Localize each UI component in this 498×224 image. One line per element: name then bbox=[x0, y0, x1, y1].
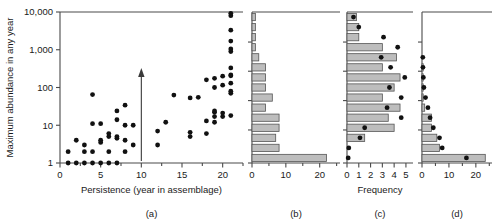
panel-a-data-point-35 bbox=[188, 130, 193, 135]
panel-a-data-point-59 bbox=[228, 47, 233, 52]
panel-b-label: (b) bbox=[290, 208, 302, 219]
panel-a-data-point-7 bbox=[66, 149, 71, 154]
panel-b-bar-9 bbox=[252, 64, 266, 71]
panel-a-data-point-34 bbox=[188, 134, 193, 139]
panel-d-x-tick-label-1: 10 bbox=[444, 169, 455, 180]
panel-d-overlay-point-7 bbox=[421, 85, 426, 90]
panel-a-data-point-5 bbox=[106, 161, 111, 166]
panel-c-x-tick-label-3: 3 bbox=[380, 169, 385, 180]
panel-b-x-tick-label-0: 0 bbox=[249, 169, 254, 180]
panel-a-data-point-60 bbox=[228, 39, 233, 44]
panel-c-overlay-point-8 bbox=[402, 75, 407, 80]
panel-d-bar-2 bbox=[422, 134, 437, 141]
panel-d-overlay-point-9 bbox=[421, 65, 426, 70]
panel-c-overlay-point-5 bbox=[385, 105, 390, 110]
panel-a-x-tick-label-2: 10 bbox=[136, 169, 147, 180]
panel-b-bar-3 bbox=[252, 124, 279, 131]
panel-d-overlay-point-6 bbox=[423, 95, 428, 100]
panel-c-overlay-point-14 bbox=[351, 15, 356, 20]
figure-container: 1101001,00010,000Maximum abundance in an… bbox=[0, 0, 498, 224]
panel-a-data-point-27 bbox=[123, 103, 128, 108]
panel-d-overlay-point-3 bbox=[431, 125, 436, 130]
panel-a-data-point-63 bbox=[228, 11, 233, 16]
panel-a-x-tick-label-1: 5 bbox=[98, 169, 103, 180]
panel-a-data-point-20 bbox=[123, 138, 128, 143]
panel-a-data-point-10 bbox=[106, 149, 111, 154]
panel-b-bar-0 bbox=[252, 154, 326, 161]
panel-a-data-point-8 bbox=[82, 149, 87, 154]
panel-c-overlay-point-4 bbox=[399, 115, 404, 120]
panel-a-data-point-51 bbox=[228, 113, 233, 118]
panel-a-data-point-11 bbox=[123, 149, 128, 154]
panel-c-overlay-point-6 bbox=[399, 95, 404, 100]
panel-a-axis-group: 05101520 bbox=[57, 163, 243, 180]
panel-b-bar-1 bbox=[252, 144, 279, 151]
panel-c-overlay-point-13 bbox=[356, 25, 361, 30]
panel-a-data-point-28 bbox=[115, 108, 120, 113]
panel-c-overlay-point-2 bbox=[358, 135, 363, 140]
panel-d-x-tick-label-2: 20 bbox=[471, 169, 482, 180]
panel-a-data-point-49 bbox=[220, 83, 225, 88]
panel-d-overlay-point-1 bbox=[440, 146, 445, 151]
panel-a-data-point-37 bbox=[196, 95, 201, 100]
y-tick-label-0: 1 bbox=[48, 157, 53, 168]
panel-c-overlay-point-3 bbox=[362, 125, 367, 130]
panel-d-bar-6 bbox=[422, 94, 423, 101]
y-tick-label-2: 100 bbox=[37, 82, 53, 93]
four-panel-figure: 1101001,00010,000Maximum abundance in an… bbox=[0, 0, 498, 224]
panel-a-data-point-24 bbox=[90, 121, 95, 126]
panel-a-data-point-42 bbox=[212, 114, 217, 119]
panel-a-data-point-54 bbox=[228, 81, 233, 86]
panel-d-x-tick-label-0: 0 bbox=[419, 169, 424, 180]
panel-b-bar-4 bbox=[252, 114, 279, 121]
panel-c-bar-12 bbox=[347, 34, 359, 41]
panel-a-data-point-40 bbox=[204, 77, 209, 82]
panel-a-data-point-46 bbox=[212, 76, 217, 81]
panel-b-bar-7 bbox=[252, 84, 266, 91]
panel-c-x-axis-title: Frequency bbox=[358, 184, 403, 195]
panel-a-data-point-19 bbox=[115, 134, 120, 139]
panel-a-data-point-33 bbox=[171, 93, 176, 98]
panel-c-x-tick-label-5: 5 bbox=[403, 169, 408, 180]
panel-c-bar-3 bbox=[347, 124, 394, 131]
panel-c-bar-6 bbox=[347, 94, 382, 101]
panel-a-data-point-0 bbox=[66, 161, 71, 166]
panel-d-label: (d) bbox=[451, 208, 463, 219]
panel-a-plot bbox=[60, 11, 243, 165]
panel-d-overlay-point-5 bbox=[426, 105, 431, 110]
panel-b-bar-10 bbox=[252, 54, 259, 61]
panel-a-data-point-56 bbox=[228, 73, 233, 78]
y-tick-label-3: 1,000 bbox=[29, 44, 53, 55]
panel-a-data-point-45 bbox=[212, 85, 217, 90]
panel-a-data-point-44 bbox=[212, 108, 217, 113]
panel-a-data-point-9 bbox=[90, 149, 95, 154]
panel-a-data-point-25 bbox=[98, 121, 103, 126]
panel-b-x-tick-label-2: 20 bbox=[314, 169, 325, 180]
panel-b-bar-5 bbox=[252, 104, 266, 111]
panel-b-bar-11 bbox=[252, 44, 255, 51]
panel-b-plot bbox=[252, 12, 340, 162]
panel-a-data-point-36 bbox=[188, 96, 193, 101]
panel-c-plot bbox=[346, 12, 413, 160]
panel-a-data-point-3 bbox=[90, 161, 95, 166]
panel-a-data-point-2 bbox=[82, 161, 87, 166]
panel-d-bar-5 bbox=[422, 104, 425, 111]
panel-a-data-point-4 bbox=[98, 161, 103, 166]
panel-d-bar-3 bbox=[422, 124, 431, 131]
panel-a-data-point-1 bbox=[74, 161, 79, 166]
panel-a-data-point-22 bbox=[131, 143, 136, 148]
panel-a-data-point-26 bbox=[115, 117, 120, 122]
panel-d-plot bbox=[420, 12, 492, 162]
panel-c-x-tick-label-4: 4 bbox=[391, 169, 396, 180]
panel-d-overlay-point-0 bbox=[464, 156, 469, 161]
panel-b-bar-6 bbox=[252, 94, 272, 101]
panel-d-overlay-point-10 bbox=[420, 55, 425, 60]
panel-c-bar-5 bbox=[347, 104, 400, 111]
panel-a-data-point-32 bbox=[163, 120, 168, 125]
panel-c-bar-10 bbox=[347, 54, 397, 61]
panel-a-arrow-head bbox=[138, 68, 144, 77]
panel-c-bar-8 bbox=[347, 74, 400, 81]
panel-a-data-point-15 bbox=[98, 138, 103, 143]
panel-a-data-point-6 bbox=[115, 161, 120, 166]
panel-b-x-tick-label-1: 10 bbox=[281, 169, 292, 180]
